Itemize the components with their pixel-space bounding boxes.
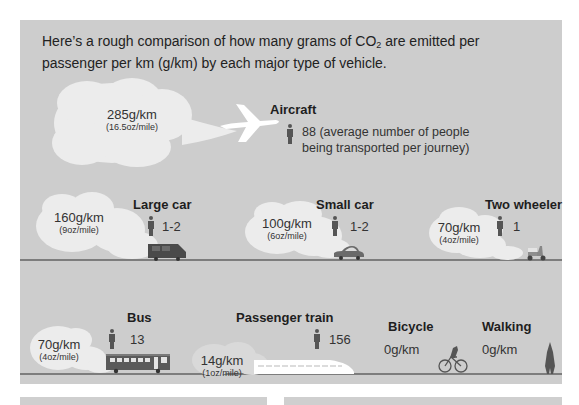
bicycle-icon	[438, 344, 468, 374]
small-car-emission-metric: 100g/km	[252, 216, 322, 231]
infographic-panel: Here’s a rough comparison of how many gr…	[20, 20, 562, 384]
two-wheeler-emission-imperial: (4oz/mile)	[427, 235, 491, 246]
intro-text: Here’s a rough comparison of how many gr…	[42, 32, 522, 72]
van-icon	[148, 242, 188, 261]
scooter-icon	[526, 244, 548, 261]
bus-emission-imperial: (4oz/mile)	[30, 352, 88, 363]
large-car-title: Large car	[133, 197, 192, 212]
train-icon	[254, 360, 354, 374]
bicycle-emission-metric: 0g/km	[384, 342, 432, 357]
walking-person-icon	[544, 342, 556, 374]
bus-passengers: 13	[130, 332, 144, 347]
small-car-emission-imperial: (6oz/mile)	[252, 231, 322, 242]
person-icon	[496, 216, 504, 236]
aircraft-passengers-line2: being transported per journey)	[302, 140, 469, 156]
bus-emission-metric: 70g/km	[30, 337, 88, 352]
train-title: Passenger train	[236, 310, 334, 325]
bicycle-title: Bicycle	[388, 319, 434, 334]
bus-emission: 70g/km (4oz/mile)	[30, 337, 88, 363]
train-emission-imperial: (1oz/mile)	[196, 368, 248, 379]
large-car-emission: 160g/km (9oz/mile)	[44, 210, 114, 236]
intro-text-part1: Here’s a rough comparison of how many gr…	[42, 33, 376, 49]
small-car-title: Small car	[316, 197, 374, 212]
person-icon	[108, 329, 116, 349]
large-car-emission-metric: 160g/km	[44, 210, 114, 225]
aircraft-emission-imperial: (16.5oz/mile)	[82, 122, 182, 133]
small-car-emission: 100g/km (6oz/mile)	[252, 216, 322, 242]
train-passengers: 156	[329, 332, 351, 347]
large-car-emission-imperial: (9oz/mile)	[44, 225, 114, 236]
two-wheeler-title: Two wheeler	[485, 197, 562, 212]
large-car-passengers: 1-2	[162, 219, 181, 234]
bus-title: Bus	[127, 310, 152, 325]
train-emission-metric: 14g/km	[196, 353, 248, 368]
walking-emission-metric: 0g/km	[482, 342, 530, 357]
bottom-panel-right	[284, 397, 562, 405]
two-wheeler-emission-metric: 70g/km	[427, 220, 491, 235]
person-icon	[331, 216, 339, 236]
small-car-passengers: 1-2	[350, 219, 369, 234]
bicycle-emission: 0g/km	[384, 342, 432, 357]
train-emission: 14g/km (1oz/mile)	[196, 353, 248, 379]
person-icon	[286, 124, 294, 144]
car-icon	[334, 246, 364, 260]
aircraft-passengers: 88 (average number of people being trans…	[302, 124, 469, 156]
walking-emission: 0g/km	[482, 342, 530, 357]
bus-icon	[106, 352, 172, 374]
person-icon	[313, 329, 321, 349]
aircraft-title: Aircraft	[270, 102, 316, 117]
two-wheeler-emission: 70g/km (4oz/mile)	[427, 220, 491, 246]
bottom-panel-left	[20, 397, 267, 405]
walking-title: Walking	[482, 319, 531, 334]
two-wheeler-passengers: 1	[513, 219, 520, 234]
aircraft-emission: 285g/km (16.5oz/mile)	[82, 107, 182, 133]
aircraft-emission-metric: 285g/km	[82, 107, 182, 122]
person-icon	[147, 216, 155, 236]
aircraft-passengers-line1: 88 (average number of people	[302, 124, 469, 140]
